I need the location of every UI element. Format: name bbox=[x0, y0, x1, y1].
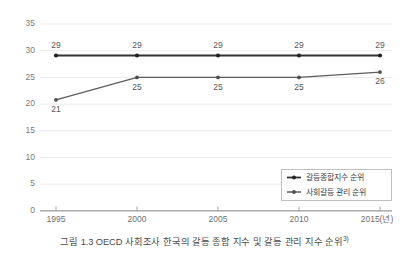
x-tick-2010: 2010 bbox=[290, 214, 309, 224]
series-labels-social-conflict-management: 21 25 25 25 26 bbox=[51, 76, 385, 114]
data-point-b-2010 bbox=[297, 76, 301, 80]
data-point-a-2000 bbox=[135, 53, 139, 57]
figure-caption-footnote: 3) bbox=[343, 235, 349, 242]
data-label-b-2010: 25 bbox=[294, 82, 304, 92]
y-axis-tick-labels: 35 30 25 20 15 10 5 0 bbox=[26, 18, 36, 215]
data-label-b-1995: 21 bbox=[51, 104, 61, 114]
x-tick-2000: 2000 bbox=[128, 214, 147, 224]
data-label-b-2005: 25 bbox=[213, 82, 223, 92]
legend-label-conflict-index: 갈등종합지수 순위 bbox=[306, 173, 364, 182]
legend-label-social-conflict-management: 사회갈등 관리 순위 bbox=[306, 187, 366, 197]
data-label-a-2015: 29 bbox=[375, 40, 385, 50]
data-point-b-2005 bbox=[216, 76, 220, 80]
x-axis-tick-labels: 1995 2000 2005 2010 2015(년) bbox=[47, 214, 394, 224]
series-labels-conflict-index: 29 29 29 29 29 bbox=[51, 40, 385, 50]
data-label-a-1995: 29 bbox=[51, 40, 61, 50]
data-point-a-2010 bbox=[297, 53, 301, 57]
line-chart: 35 30 25 20 15 10 5 0 1995 2000 2005 201… bbox=[0, 0, 409, 234]
data-label-a-2010: 29 bbox=[294, 40, 304, 50]
figure-container: 35 30 25 20 15 10 5 0 1995 2000 2005 201… bbox=[0, 0, 409, 261]
y-tick-20: 20 bbox=[26, 98, 36, 108]
legend-swatch-marker-b bbox=[292, 190, 296, 194]
x-tick-2015: 2015(년) bbox=[361, 214, 394, 224]
figure-caption: 그림 1.3 OECD 사회조사 한국의 갈등 종합 지수 및 갈등 관리 지수… bbox=[0, 234, 409, 248]
data-label-b-2015: 26 bbox=[375, 76, 385, 86]
x-tick-1995: 1995 bbox=[47, 214, 66, 224]
data-point-a-1995 bbox=[54, 53, 58, 57]
figure-caption-text: 그림 1.3 OECD 사회조사 한국의 갈등 종합 지수 및 갈등 관리 지수… bbox=[60, 237, 342, 247]
legend-swatch-marker-a bbox=[292, 176, 296, 180]
chart-legend[interactable]: 갈등종합지수 순위 사회갈등 관리 순위 bbox=[282, 170, 392, 201]
x-tick-2005: 2005 bbox=[209, 214, 228, 224]
data-point-a-2005 bbox=[216, 53, 220, 57]
data-point-b-2015 bbox=[378, 70, 382, 74]
y-tick-30: 30 bbox=[26, 45, 36, 55]
data-label-a-2005: 29 bbox=[213, 40, 223, 50]
y-tick-15: 15 bbox=[26, 125, 36, 135]
y-tick-25: 25 bbox=[26, 72, 36, 82]
data-point-b-1995 bbox=[54, 98, 58, 102]
y-tick-10: 10 bbox=[26, 152, 36, 162]
data-point-b-2000 bbox=[135, 76, 139, 80]
y-tick-35: 35 bbox=[26, 18, 36, 28]
y-tick-0: 0 bbox=[30, 205, 35, 215]
x-axis-ticks bbox=[56, 207, 380, 211]
data-label-b-2000: 25 bbox=[132, 82, 142, 92]
y-tick-5: 5 bbox=[30, 178, 35, 188]
data-point-a-2015 bbox=[378, 53, 382, 57]
data-label-a-2000: 29 bbox=[132, 40, 142, 50]
